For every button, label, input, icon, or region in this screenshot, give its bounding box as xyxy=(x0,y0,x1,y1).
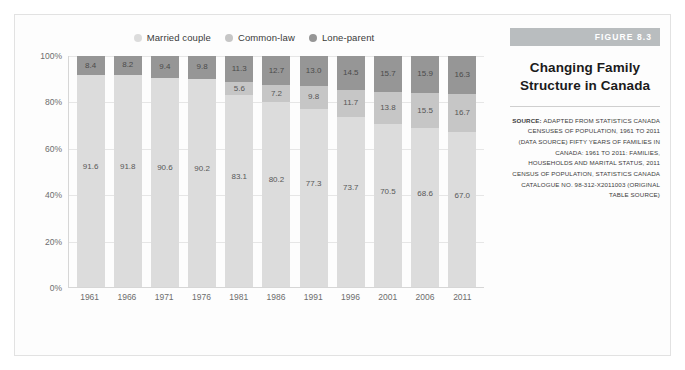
bar-column[interactable]: 15.713.870.5 xyxy=(374,56,402,287)
bar-value-label: 12.7 xyxy=(269,67,285,75)
x-axis-tick-label: 1996 xyxy=(336,292,364,312)
source-text: ADAPTED FROM STATISTICS CANADA CENSUSES … xyxy=(512,117,660,199)
bar-value-label: 15.5 xyxy=(417,107,433,115)
bar-segment-lone[interactable]: 14.5 xyxy=(337,56,365,90)
y-axis-tick-label: 60% xyxy=(45,144,62,154)
bar-value-label: 9.8 xyxy=(197,63,208,71)
bar-value-label: 13.8 xyxy=(380,104,396,112)
figure-sidebar: FIGURE 8.3 Changing Family Structure in … xyxy=(510,28,660,201)
bar-value-label: 67.0 xyxy=(455,192,471,200)
bar-value-label: 70.5 xyxy=(380,188,396,196)
bar-value-label: 14.5 xyxy=(343,69,359,77)
bar-value-label: 77.3 xyxy=(306,180,322,188)
bar-segment-married[interactable]: 91.6 xyxy=(77,75,105,287)
bar-column[interactable]: 9.490.6 xyxy=(151,56,179,287)
bar-segment-lone[interactable]: 9.8 xyxy=(188,56,216,79)
legend-item-married-couple[interactable]: Married couple xyxy=(134,32,211,43)
bar-value-label: 90.6 xyxy=(157,164,173,172)
bar-value-label: 11.3 xyxy=(232,65,247,73)
bar-value-label: 68.6 xyxy=(417,190,433,198)
bar-value-label: 9.4 xyxy=(159,63,170,71)
bar-segment-lone[interactable]: 13.0 xyxy=(300,56,328,86)
bar-value-label: 15.7 xyxy=(380,70,396,78)
bar-segment-married[interactable]: 91.8 xyxy=(114,75,142,287)
x-axis-tick-label: 1981 xyxy=(225,292,253,312)
bar-segment-lone[interactable]: 11.3 xyxy=(225,56,253,82)
bar-segment-lone[interactable]: 9.4 xyxy=(151,56,179,78)
bar-value-label: 8.2 xyxy=(122,61,133,69)
bar-value-label: 9.8 xyxy=(308,93,319,101)
bar-segment-married[interactable]: 80.2 xyxy=(262,102,290,287)
legend-swatch-icon xyxy=(225,34,233,42)
x-axis-tick-label: 1991 xyxy=(299,292,327,312)
figure-source-note: SOURCE: ADAPTED FROM STATISTICS CANADA C… xyxy=(510,116,660,201)
y-axis-tick-label: 20% xyxy=(45,237,62,247)
figure-number-banner: FIGURE 8.3 xyxy=(510,28,660,46)
bar-value-label: 11.7 xyxy=(343,99,358,107)
plot-area: 8.491.68.291.89.490.69.890.211.35.683.11… xyxy=(68,56,484,288)
figure-number-label: FIGURE 8.3 xyxy=(595,32,652,42)
legend-swatch-icon xyxy=(134,34,142,42)
bar-value-label: 5.6 xyxy=(234,85,245,93)
figure-title-line-2: Structure in Canada xyxy=(510,77,660,95)
y-axis-tick-label: 100% xyxy=(40,51,62,61)
bar-segment-married[interactable]: 70.5 xyxy=(374,124,402,287)
bar-segment-common[interactable]: 7.2 xyxy=(262,85,290,102)
bar-segment-common[interactable]: 15.5 xyxy=(411,93,439,129)
y-axis-tick-label: 40% xyxy=(45,190,62,200)
title-divider xyxy=(510,106,660,107)
bar-value-label: 80.2 xyxy=(269,176,285,184)
bar-value-label: 91.6 xyxy=(83,163,99,171)
bar-segment-lone[interactable]: 8.4 xyxy=(77,56,105,75)
figure-title: Changing Family Structure in Canada xyxy=(510,59,660,95)
bar-value-label: 16.7 xyxy=(455,109,471,117)
bar-segment-lone[interactable]: 16.3 xyxy=(448,56,476,94)
bar-column[interactable]: 13.09.877.3 xyxy=(300,56,328,287)
bar-column[interactable]: 8.491.6 xyxy=(77,56,105,287)
bar-segment-lone[interactable]: 8.2 xyxy=(114,56,142,75)
bar-value-label: 73.7 xyxy=(343,184,359,192)
bar-column[interactable]: 11.35.683.1 xyxy=(225,56,253,287)
x-axis: 1961196619711976198119861991199620012006… xyxy=(68,292,484,312)
bar-segment-married[interactable]: 83.1 xyxy=(225,95,253,287)
bar-segment-married[interactable]: 67.0 xyxy=(448,132,476,287)
bar-segment-common[interactable]: 9.8 xyxy=(300,86,328,109)
bar-column[interactable]: 8.291.8 xyxy=(114,56,142,287)
bar-segment-married[interactable]: 90.6 xyxy=(151,78,179,287)
bar-segment-married[interactable]: 68.6 xyxy=(411,128,439,287)
bar-value-label: 15.9 xyxy=(417,70,433,78)
bar-segment-lone[interactable]: 15.7 xyxy=(374,56,402,92)
bar-column[interactable]: 16.316.767.0 xyxy=(448,56,476,287)
y-axis-tick-label: 80% xyxy=(45,97,62,107)
bar-value-label: 83.1 xyxy=(231,173,247,181)
bar-segment-common[interactable]: 11.7 xyxy=(337,90,365,117)
bar-column[interactable]: 12.77.280.2 xyxy=(262,56,290,287)
bar-segment-common[interactable]: 5.6 xyxy=(225,82,253,95)
bar-column[interactable]: 14.511.773.7 xyxy=(337,56,365,287)
x-axis-tick-label: 2006 xyxy=(411,292,439,312)
x-axis-tick-label: 2001 xyxy=(374,292,402,312)
bar-group: 8.491.68.291.89.490.69.890.211.35.683.11… xyxy=(69,56,484,287)
bar-value-label: 7.2 xyxy=(271,90,282,98)
x-axis-tick-label: 1961 xyxy=(76,292,104,312)
bar-segment-lone[interactable]: 12.7 xyxy=(262,56,290,85)
bar-segment-common[interactable]: 16.7 xyxy=(448,94,476,133)
legend-label: Common-law xyxy=(238,32,295,43)
bar-segment-common[interactable]: 13.8 xyxy=(374,92,402,124)
figure-page: Married coupleCommon-lawLone-parent 100%… xyxy=(0,0,685,370)
bar-segment-lone[interactable]: 15.9 xyxy=(411,56,439,93)
bar-segment-married[interactable]: 77.3 xyxy=(300,109,328,287)
legend-item-lone-parent[interactable]: Lone-parent xyxy=(309,32,374,43)
chart-panel: Married coupleCommon-lawLone-parent 100%… xyxy=(24,22,484,340)
bar-segment-married[interactable]: 90.2 xyxy=(188,79,216,287)
legend-label: Married couple xyxy=(147,32,211,43)
plot-area-wrapper: 100%80%60%40%20%0% 8.491.68.291.89.490.6… xyxy=(24,56,484,314)
figure-title-line-1: Changing Family xyxy=(510,59,660,77)
bar-value-label: 16.3 xyxy=(455,71,471,79)
bar-column[interactable]: 15.915.568.6 xyxy=(411,56,439,287)
bar-segment-married[interactable]: 73.7 xyxy=(337,117,365,287)
legend-item-common-law[interactable]: Common-law xyxy=(225,32,295,43)
bar-column[interactable]: 9.890.2 xyxy=(188,56,216,287)
y-axis: 100%80%60%40%20%0% xyxy=(24,56,68,288)
bar-value-label: 13.0 xyxy=(306,67,322,75)
